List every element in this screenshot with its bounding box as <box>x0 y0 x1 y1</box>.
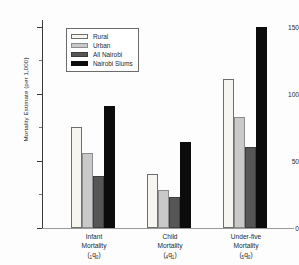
legend-swatch-icon <box>71 52 88 58</box>
bar-urban[interactable] <box>158 190 169 228</box>
legend-item-label: Rural <box>93 33 108 40</box>
category-label-notation: (4q1) <box>127 250 213 262</box>
bar-nairobi-slums[interactable] <box>256 27 267 228</box>
bar-urban[interactable] <box>234 117 245 228</box>
chart-legend: RuralUrbanAll NairobiNairobi Slums <box>66 28 139 72</box>
legend-item-label: All Nairobi <box>93 51 122 58</box>
bar-group-bars <box>223 20 267 228</box>
bar-all-nairobi[interactable] <box>245 147 256 228</box>
category-label-line1: Infant <box>86 233 103 240</box>
bar-rural[interactable] <box>71 127 82 228</box>
bar-nairobi-slums[interactable] <box>180 142 191 228</box>
bar-rural[interactable] <box>223 79 234 228</box>
legend-swatch-icon <box>71 34 88 40</box>
bar-all-nairobi[interactable] <box>169 197 180 228</box>
category-label-line2: Mortality <box>51 241 137 250</box>
bar-nairobi-slums[interactable] <box>104 106 115 228</box>
category-label-notation: (1q0) <box>51 250 137 262</box>
legend-swatch-icon <box>71 43 88 49</box>
legend-item[interactable]: All Nairobi <box>71 50 133 59</box>
category-label: ChildMortality(4q1) <box>127 232 213 262</box>
category-label-line2: Mortality <box>203 241 289 250</box>
legend-item[interactable]: Urban <box>71 41 133 50</box>
bar-all-nairobi[interactable] <box>93 176 104 228</box>
bar-group-bars <box>147 20 191 228</box>
x-axis-line <box>42 228 294 229</box>
category-label-line1: Child <box>162 233 177 240</box>
category-label-line1: Under-five <box>231 233 261 240</box>
legend-swatch-icon <box>71 61 88 67</box>
bar-rural[interactable] <box>147 174 158 228</box>
category-label: InfantMortality(1q0) <box>51 232 137 262</box>
y-axis-title: Mortality Estimate (per 1,000) <box>22 35 29 165</box>
category-label-notation: (5q0) <box>203 250 289 262</box>
legend-item[interactable]: Nairobi Slums <box>71 59 133 68</box>
category-label: Under-fiveMortality(5q0) <box>203 232 289 262</box>
bar-urban[interactable] <box>82 153 93 228</box>
mortality-bar-chart: Mortality Estimate (per 1,000) 150100500… <box>0 0 299 265</box>
category-label-line2: Mortality <box>127 241 213 250</box>
legend-item-label: Nairobi Slums <box>93 60 133 67</box>
legend-item[interactable]: Rural <box>71 32 133 41</box>
legend-item-label: Urban <box>93 42 110 49</box>
